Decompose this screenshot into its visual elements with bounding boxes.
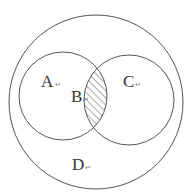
venn-diagram: A ↵ B ↵ C ↵ D ↵ xyxy=(0,0,193,195)
return-mark-d: ↵ xyxy=(85,164,91,172)
label-a: A xyxy=(41,72,54,91)
label-b: B xyxy=(71,87,82,106)
label-d: D xyxy=(72,155,84,174)
return-mark-c: ↵ xyxy=(135,81,141,89)
label-c: C xyxy=(123,72,134,91)
return-mark-a: ↵ xyxy=(55,81,61,89)
return-mark-b: ↵ xyxy=(83,96,89,104)
